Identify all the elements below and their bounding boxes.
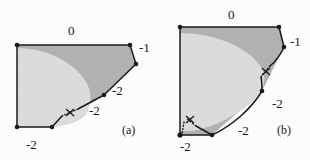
figure-canvas — [0, 0, 310, 160]
panel-a-vertex-dot — [15, 43, 20, 48]
panel-b-level-label-minus2-upper: -2 — [272, 97, 283, 110]
panel-b-level-label-minus2-mid: -2 — [238, 124, 249, 137]
panel-b-vertex-dot — [277, 25, 282, 30]
panel-b-vertex-dot — [282, 45, 287, 50]
panel-b-group — [177, 25, 286, 138]
panel-a-level-label-minus2-bottom: -2 — [26, 138, 37, 151]
panel-b-level-label-minus1: -1 — [290, 35, 301, 48]
panel-a-vertex-dot — [102, 93, 107, 98]
panel-a-level-label-minus2-upper: -2 — [112, 84, 123, 97]
panel-b-vertex-dot — [210, 133, 215, 138]
panel-a-tag: (a) — [122, 124, 135, 136]
figure-container: 0 -1 -2 -2 -2 (a) 0 -1 -2 -2 -2 (b) — [0, 0, 310, 160]
panel-b-vertex-dot — [178, 25, 183, 30]
panel-a-vertex-dot — [128, 43, 133, 48]
panel-a-level-label-0: 0 — [68, 24, 75, 37]
panel-a-vertex-dot — [15, 125, 20, 130]
panel-b-tag: (b) — [277, 124, 291, 136]
panel-a-level-label-minus2-mid: -2 — [89, 104, 100, 117]
panel-b-level-label-0: 0 — [228, 8, 235, 21]
panel-a-vertex-dot — [134, 62, 139, 67]
panel-b-vertex-dot — [260, 89, 265, 94]
panel-b-level-label-minus2-bottom: -2 — [180, 140, 191, 153]
panel-b-vertex-dot — [177, 132, 182, 137]
panel-a-vertex-dot — [50, 125, 55, 130]
panel-a-level-label-minus1: -1 — [139, 41, 150, 54]
